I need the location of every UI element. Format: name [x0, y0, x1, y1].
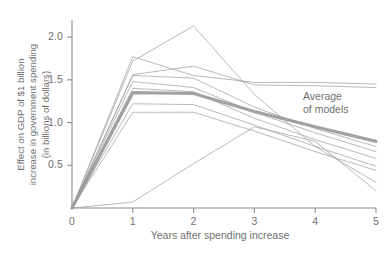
- model-line-9: [72, 127, 376, 208]
- x-tick-label-3: 3: [240, 215, 268, 227]
- y-axis-title: Effect on GDP of $1 billion increase in …: [15, 25, 52, 205]
- chart-series: [72, 26, 376, 208]
- model-line-8: [72, 112, 376, 208]
- average-of-models-annotation: Average of models: [303, 90, 349, 116]
- chart-figure: 2.0 1.5 1.0 0.5 0 1 2 3 4 5 Effect on GD…: [0, 0, 390, 253]
- x-tick-label-2: 2: [180, 215, 208, 227]
- x-tick-label-1: 1: [119, 215, 147, 227]
- x-tick-label-4: 4: [301, 215, 329, 227]
- model-line-1: [72, 26, 376, 208]
- model-line-2: [72, 57, 376, 208]
- x-tick-label-5: 5: [362, 215, 390, 227]
- x-tick-label-0: 0: [58, 215, 86, 227]
- x-axis-title: Years after spending increase: [120, 229, 320, 241]
